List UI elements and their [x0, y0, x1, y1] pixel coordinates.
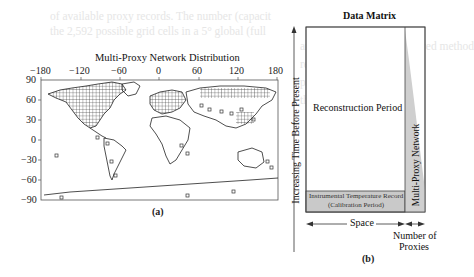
- reconstruction-period-label: Reconstruction Period: [313, 102, 402, 113]
- proxies-label-line1: Number of: [393, 230, 437, 241]
- space-label: Space: [348, 217, 376, 228]
- time-axis-label: Increasing Time Before Present: [290, 71, 301, 211]
- panel-b-label: (b): [362, 253, 374, 264]
- calibration-label-line1: Instrumental Temperature Record: [309, 192, 403, 200]
- network-label: Multi-Proxy Network: [411, 110, 421, 220]
- proxies-label-line2: Proxies: [399, 241, 429, 252]
- calibration-label-line2: (Calibration Period): [309, 201, 403, 209]
